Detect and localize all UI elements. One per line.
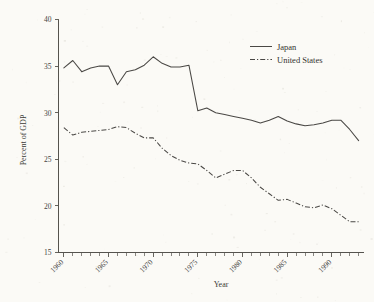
x-axis-title: Year xyxy=(214,280,229,289)
chart-figure: 1960196519701975198019851990 15202530354… xyxy=(0,0,374,302)
y-tick-label: 35 xyxy=(44,62,52,71)
y-tick-label: 30 xyxy=(44,109,52,118)
chart-background xyxy=(0,0,374,302)
y-axis-title: Percent of GDP xyxy=(19,114,28,165)
y-tick-label: 25 xyxy=(44,155,52,164)
line-chart-svg: 1960196519701975198019851990 15202530354… xyxy=(0,0,374,302)
y-tick-label: 40 xyxy=(44,15,52,24)
legend-label-united-states: United States xyxy=(277,55,323,65)
y-tick-label: 15 xyxy=(44,248,52,257)
y-tick-label: 20 xyxy=(44,202,52,211)
legend-label-japan: Japan xyxy=(277,42,297,52)
